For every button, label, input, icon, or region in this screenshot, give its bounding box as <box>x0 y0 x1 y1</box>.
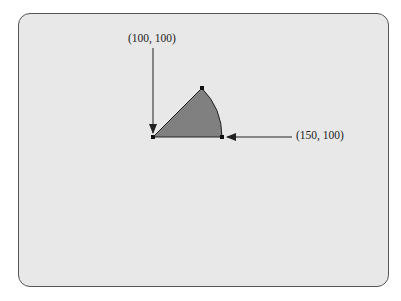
end-point-top <box>200 86 204 90</box>
end-point-right <box>220 135 224 139</box>
label-right-point: (150, 100) <box>296 129 344 141</box>
pie-sector <box>153 88 222 137</box>
pie-sector-diagram <box>0 0 401 301</box>
center-point <box>151 135 155 139</box>
label-top-point: (100, 100) <box>128 32 176 44</box>
